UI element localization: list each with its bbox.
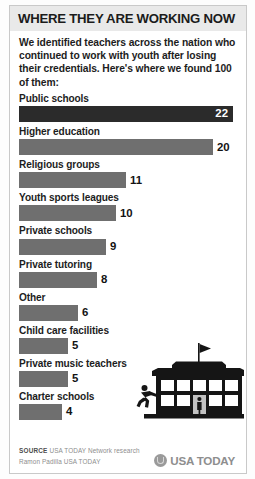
header-band: WHERE THEY ARE WORKING NOW — [10, 6, 246, 31]
bar-value: 4 — [66, 406, 72, 417]
bar-label: Higher education — [19, 126, 238, 138]
bar — [19, 172, 126, 188]
bar-value: 10 — [120, 208, 133, 219]
bar-label: Religious groups — [19, 159, 238, 171]
page-title: WHERE THEY ARE WORKING NOW — [18, 12, 238, 26]
bar-label: Charter schools — [19, 391, 238, 403]
bar — [19, 404, 62, 420]
bar-value: 20 — [217, 142, 230, 153]
credit-line: Ramon Padilla USA TODAY — [19, 456, 140, 467]
bar-line: 5 — [19, 338, 238, 354]
bar-value: 9 — [110, 241, 116, 252]
bar-label: Private schools — [19, 225, 238, 237]
chart-row: Private schools 9 — [19, 225, 238, 254]
bar-value: 11 — [130, 175, 142, 186]
bar-label: Private music teachers — [19, 358, 238, 370]
bar-line: 5 — [19, 371, 238, 387]
chart-row: Private tutoring 8 — [19, 259, 238, 288]
bar-line: 4 — [19, 404, 238, 420]
source-prefix: SOURCE — [19, 447, 48, 454]
chart-row: Private music teachers 5 — [19, 358, 238, 387]
source-text: USA TODAY Network research — [49, 447, 139, 454]
bar-chart: Public schools 22 Higher education 20 Re… — [10, 91, 246, 420]
bar — [19, 338, 68, 354]
bar-line: 11 — [19, 172, 238, 188]
bar-label: Youth sports leagues — [19, 192, 238, 204]
bar-value: 22 — [215, 108, 228, 119]
source-block: SOURCE USA TODAY Network research Ramon … — [19, 445, 140, 467]
footer: SOURCE USA TODAY Network research Ramon … — [10, 442, 246, 473]
chart-row: Public schools 22 — [19, 93, 238, 122]
bar: 22 — [19, 106, 233, 122]
bar-line: 22 — [19, 106, 238, 122]
bar — [19, 272, 97, 288]
bar-line: 10 — [19, 205, 238, 221]
usa-today-logo-text: USA TODAY — [170, 454, 235, 467]
bar-line: 6 — [19, 305, 238, 321]
chart-row: Other 6 — [19, 292, 238, 321]
bar — [19, 205, 116, 221]
infographic-card: WHERE THEY ARE WORKING NOW We identified… — [9, 5, 247, 474]
bar-value: 6 — [82, 307, 88, 318]
infographic-page: WHERE THEY ARE WORKING NOW We identified… — [0, 0, 255, 479]
chart-row: Charter schools 4 — [19, 391, 238, 420]
bar-label: Child care facilities — [19, 325, 238, 337]
chart-row: Higher education 20 — [19, 126, 238, 155]
source-line: SOURCE USA TODAY Network research — [19, 445, 140, 456]
bar-value: 8 — [101, 274, 107, 285]
usa-today-globe-icon — [154, 454, 167, 467]
chart-row: Child care facilities 5 — [19, 325, 238, 354]
chart-row: Youth sports leagues 10 — [19, 192, 238, 221]
bar — [19, 371, 68, 387]
bar-label: Private tutoring — [19, 259, 238, 271]
usa-today-logo: USA TODAY — [154, 454, 238, 467]
bar-label: Other — [19, 292, 238, 304]
bar — [19, 239, 106, 255]
bar-line: 20 — [19, 139, 238, 155]
bar-line: 8 — [19, 272, 238, 288]
intro-paragraph: We identified teachers across the nation… — [10, 31, 246, 91]
bar-label: Public schools — [19, 93, 238, 105]
bar — [19, 305, 78, 321]
bar-value: 5 — [72, 340, 78, 351]
bar-value: 5 — [72, 373, 78, 384]
bar — [19, 139, 213, 155]
chart-row: Religious groups 11 — [19, 159, 238, 188]
bar-line: 9 — [19, 239, 238, 255]
